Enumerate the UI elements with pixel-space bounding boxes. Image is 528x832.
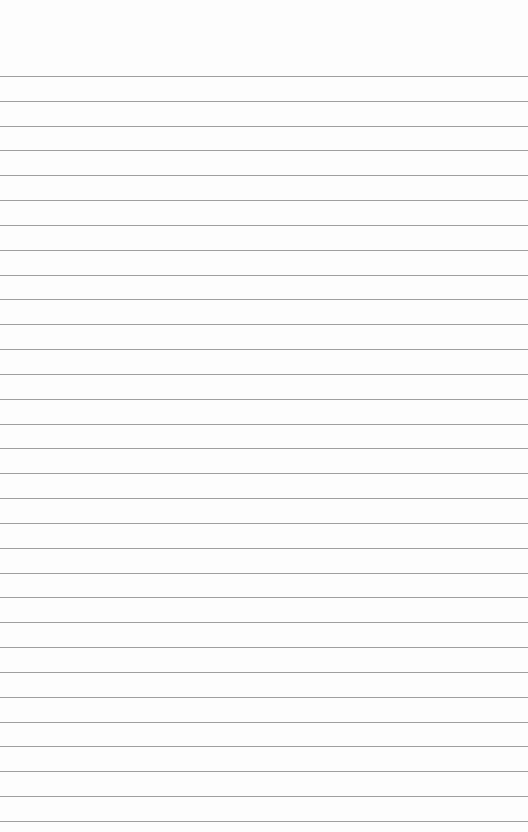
ruled-line <box>0 722 528 723</box>
ruled-line <box>0 76 528 77</box>
ruled-line <box>0 275 528 276</box>
ruled-line <box>0 225 528 226</box>
ruled-line <box>0 573 528 574</box>
ruled-line <box>0 200 528 201</box>
lined-paper <box>0 0 528 832</box>
ruled-line <box>0 448 528 449</box>
ruled-line <box>0 647 528 648</box>
ruled-line <box>0 374 528 375</box>
ruled-line <box>0 548 528 549</box>
ruled-line <box>0 150 528 151</box>
ruled-line <box>0 597 528 598</box>
ruled-line <box>0 349 528 350</box>
ruled-line <box>0 101 528 102</box>
ruled-line <box>0 672 528 673</box>
ruled-line <box>0 746 528 747</box>
ruled-line <box>0 175 528 176</box>
ruled-line <box>0 473 528 474</box>
ruled-line <box>0 697 528 698</box>
ruled-line <box>0 126 528 127</box>
ruled-line <box>0 523 528 524</box>
ruled-line <box>0 324 528 325</box>
ruled-line <box>0 424 528 425</box>
ruled-line <box>0 821 528 822</box>
ruled-line <box>0 796 528 797</box>
ruled-line <box>0 299 528 300</box>
ruled-line <box>0 771 528 772</box>
ruled-line <box>0 622 528 623</box>
ruled-line <box>0 498 528 499</box>
ruled-line <box>0 250 528 251</box>
ruled-line <box>0 399 528 400</box>
